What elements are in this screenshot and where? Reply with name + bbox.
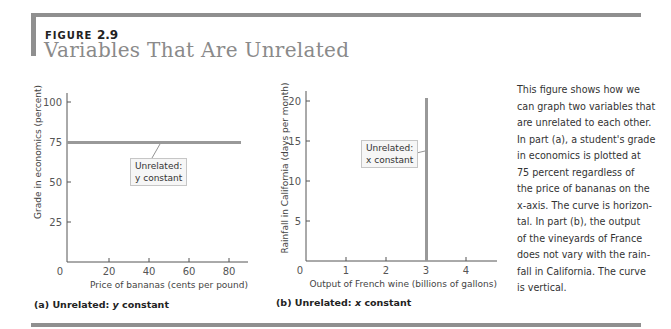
description-line: This figure shows how we bbox=[517, 82, 669, 99]
chart-b-caption: (b) Unrelated: x constant bbox=[276, 297, 411, 308]
chart-b-caption-prefix: (b) Unrelated: bbox=[276, 297, 355, 308]
chart-a-y-axis-title: Grade in economics (percent) bbox=[33, 85, 43, 219]
description-line: the price of bananas on the bbox=[517, 181, 669, 198]
chart-a-y-ticks bbox=[67, 102, 71, 222]
chart-b: 20 15 10 5 0 1 2 3 4 Output of French wi… bbox=[280, 82, 497, 289]
chart-b-x-tick-labels: 0 1 2 3 4 bbox=[297, 265, 469, 276]
svg-text:15: 15 bbox=[288, 136, 301, 147]
svg-text:4: 4 bbox=[463, 265, 469, 276]
chart-a-x-axis-title: Price of bananas (cents per pound) bbox=[90, 280, 248, 290]
chart-a-callout: Unrelated: y constant bbox=[130, 158, 187, 186]
description-line: in economics is plotted at bbox=[517, 148, 669, 165]
svg-text:60: 60 bbox=[183, 266, 196, 277]
description-line: are unrelated to each other. bbox=[517, 115, 669, 132]
chart-a-callout-leader bbox=[152, 144, 160, 158]
chart-a-x-tick-labels: 0 20 40 60 80 bbox=[57, 266, 236, 277]
figure-description: This figure shows how we can graph two v… bbox=[517, 82, 669, 297]
svg-text:0: 0 bbox=[297, 265, 303, 276]
description-line: In part (a), a student's grade bbox=[517, 132, 669, 149]
svg-text:25: 25 bbox=[49, 217, 62, 228]
chart-b-y-tick-labels: 20 15 10 5 bbox=[288, 96, 301, 227]
chart-a: 100 75 50 25 0 20 40 60 80 Price of bana… bbox=[33, 85, 248, 290]
chart-b-y-axis-title: Rainfall in California (days per month) bbox=[280, 82, 290, 253]
chart-a-y-tick-labels: 100 75 50 25 bbox=[43, 97, 62, 228]
chart-a-callout-line2: y constant bbox=[135, 172, 182, 184]
chart-a-caption-prefix: (a) Unrelated: bbox=[34, 299, 113, 310]
chart-b-y-ticks bbox=[306, 101, 310, 221]
chart-b-x-axis-title: Output of French wine (billions of gallo… bbox=[309, 279, 497, 289]
svg-text:40: 40 bbox=[143, 266, 156, 277]
chart-a-callout-line1: Unrelated: bbox=[135, 160, 182, 172]
chart-b-x-ticks bbox=[346, 257, 466, 261]
description-line: of the vineyards of France bbox=[517, 231, 669, 248]
description-line: x-axis. The curve is horizon- bbox=[517, 198, 669, 215]
svg-text:1: 1 bbox=[343, 265, 349, 276]
description-line: 75 percent regardless of bbox=[517, 165, 669, 182]
description-line: does not vary with the rain- bbox=[517, 247, 669, 264]
chart-a-x-ticks bbox=[109, 258, 229, 262]
chart-b-callout-line2: x constant bbox=[366, 154, 413, 166]
svg-text:50: 50 bbox=[49, 177, 62, 188]
chart-a-caption-suffix: constant bbox=[119, 299, 169, 310]
svg-text:100: 100 bbox=[43, 97, 62, 108]
svg-text:75: 75 bbox=[49, 137, 62, 148]
svg-text:80: 80 bbox=[223, 266, 236, 277]
svg-text:20: 20 bbox=[103, 266, 116, 277]
chart-b-callout: Unrelated: x constant bbox=[361, 140, 418, 168]
svg-text:20: 20 bbox=[288, 96, 301, 107]
description-line: tal. In part (b), the output bbox=[517, 214, 669, 231]
svg-text:10: 10 bbox=[288, 176, 301, 187]
svg-text:0: 0 bbox=[57, 266, 63, 277]
chart-b-caption-suffix: constant bbox=[361, 297, 411, 308]
svg-text:2: 2 bbox=[383, 265, 389, 276]
description-line: can graph two variables that bbox=[517, 99, 669, 116]
chart-b-callout-line1: Unrelated: bbox=[366, 142, 413, 154]
svg-text:5: 5 bbox=[295, 216, 301, 227]
chart-a-caption: (a) Unrelated: y constant bbox=[34, 299, 169, 310]
svg-text:3: 3 bbox=[423, 265, 429, 276]
description-line: is vertical. bbox=[517, 280, 669, 297]
description-line: fall in California. The curve bbox=[517, 264, 669, 281]
